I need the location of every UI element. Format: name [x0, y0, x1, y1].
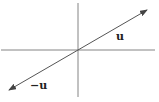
- vector-diagram: u −u: [0, 0, 159, 102]
- vector-u-arrow: [78, 10, 147, 50]
- vector-neg-u-label: −u: [30, 79, 47, 92]
- vector-u-label: u: [116, 30, 124, 43]
